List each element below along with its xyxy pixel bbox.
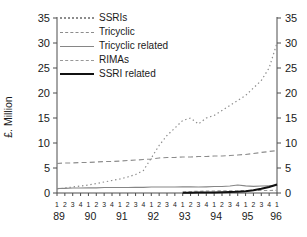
quarter-label: 4 [142, 201, 146, 208]
quarter-label: 1 [181, 201, 185, 208]
solid-line-icon [60, 46, 94, 47]
legend-item-ssris: SSRIs [60, 11, 168, 25]
year-label: 92 [147, 210, 159, 222]
quarter-label: 2 [252, 201, 256, 208]
quarter-label: 3 [165, 201, 169, 208]
dashed-line-icon [60, 32, 94, 33]
quarter-label: 3 [102, 201, 106, 208]
year-label: 95 [242, 210, 254, 222]
quarter-label: 4 [204, 201, 208, 208]
quarter-label: 3 [71, 201, 75, 208]
quarter-label: 4 [267, 201, 271, 208]
quarter-label: 2 [63, 201, 67, 208]
y-tick-label-left: 15 [38, 112, 50, 124]
quarter-label: 2 [189, 201, 193, 208]
quarter-label: 4 [110, 201, 114, 208]
quarter-label: 1 [87, 201, 91, 208]
chart-figure: 0055101015152020252530303535123412341234… [0, 0, 307, 237]
quarter-label: 4 [79, 201, 83, 208]
year-label: 93 [179, 210, 191, 222]
quarter-label: 1 [149, 201, 153, 208]
y-tick-label-right: 0 [285, 187, 291, 199]
year-label: 96 [270, 210, 282, 222]
quarter-label: 1 [118, 201, 122, 208]
year-label: 90 [85, 210, 97, 222]
quarter-label: 1 [212, 201, 216, 208]
quarter-label: 3 [259, 201, 263, 208]
legend-item-rimas: RIMAs [60, 53, 168, 67]
legend-label: Tricyclic [99, 27, 135, 37]
legend-item-ssri-related: SSRI related [60, 67, 168, 81]
quarter-label: 1 [55, 201, 59, 208]
quarter-label: 3 [228, 201, 232, 208]
year-label: 91 [116, 210, 128, 222]
legend-label: SSRIs [99, 13, 127, 23]
year-label: 89 [53, 210, 65, 222]
y-tick-label-left: 10 [38, 137, 50, 149]
quarter-label: 1 [275, 201, 279, 208]
legend-label: RIMAs [99, 55, 129, 65]
y-tick-label-left: 5 [44, 162, 50, 174]
legend-label: SSRI related [99, 69, 156, 79]
year-label: 94 [210, 210, 222, 222]
legend-item-tricyclic-related: Tricyclic related [60, 39, 168, 53]
y-tick-label-left: 20 [38, 87, 50, 99]
series-tricyclic-related [57, 185, 277, 189]
quarter-label: 3 [134, 201, 138, 208]
y-tick-label-left: 25 [38, 62, 50, 74]
quarter-label: 2 [94, 201, 98, 208]
series-tricyclic [57, 151, 277, 164]
y-tick-label-right: 10 [285, 137, 297, 149]
thick-solid-line-icon [60, 73, 94, 75]
quarter-label: 2 [220, 201, 224, 208]
legend-label: Tricyclic related [99, 41, 168, 51]
short-dashed-line-icon [60, 60, 94, 61]
y-tick-label-right: 25 [285, 62, 297, 74]
quarter-label: 4 [236, 201, 240, 208]
y-tick-label-right: 35 [285, 12, 297, 24]
y-tick-label-right: 20 [285, 87, 297, 99]
quarter-label: 1 [244, 201, 248, 208]
quarter-label: 2 [157, 201, 161, 208]
y-tick-label-right: 15 [285, 112, 297, 124]
legend-item-tricyclic: Tricyclic [60, 25, 168, 39]
dotted-line-icon [60, 17, 94, 19]
legend: SSRIs Tricyclic Tricyclic related RIMAs … [60, 11, 168, 81]
y-tick-label-left: 35 [38, 12, 50, 24]
quarter-label: 2 [126, 201, 130, 208]
y-tick-label-left: 0 [44, 187, 50, 199]
quarter-label: 4 [173, 201, 177, 208]
y-tick-label-right: 5 [285, 162, 291, 174]
y-axis-title: £. Million [2, 82, 14, 152]
y-tick-label-right: 30 [285, 37, 297, 49]
quarter-label: 3 [197, 201, 201, 208]
y-tick-label-left: 30 [38, 37, 50, 49]
